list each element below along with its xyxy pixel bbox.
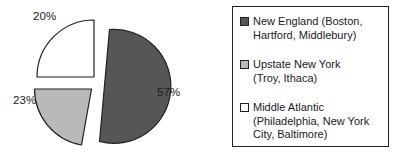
pie-label-new-england: 57% [157,86,180,99]
legend-label-line-1: Middle Atlantic [253,101,324,113]
pie-chart-area: 20% 23% 57% [0,0,215,160]
pie-label-middle-atlantic: 20% [33,10,56,23]
pie-label-upstate-new-york: 23% [13,94,36,107]
pie-chart-graphic [0,0,215,160]
legend-label-line-2: (Troy, Ithaca) [253,72,317,84]
legend-label-upstate-new-york: Upstate New York(Troy, Ithaca) [253,58,340,85]
legend-swatch-icon-upstate-new-york [240,60,249,69]
legend-label-line-1: New England (Boston, [253,15,362,27]
legend-label-new-england: New England (Boston,Hartford, Middlebury… [253,15,362,42]
legend-item-middle-atlantic[interactable]: Middle Atlantic(Philadelphia, New YorkCi… [240,101,386,142]
pie-slice-middle-atlantic[interactable] [37,20,94,77]
chart-legend: New England (Boston,Hartford, Middlebury… [232,6,389,147]
legend-label-middle-atlantic: Middle Atlantic(Philadelphia, New YorkCi… [253,101,369,142]
legend-item-upstate-new-york[interactable]: Upstate New York(Troy, Ithaca) [240,58,386,85]
legend-label-line-1: Upstate New York [253,58,340,70]
legend-label-line-3: City, Baltimore) [253,128,327,140]
legend-label-line-2: (Philadelphia, New York [253,115,369,127]
pie-slice-upstate-new-york[interactable] [35,89,92,145]
legend-label-line-2: Hartford, Middlebury) [253,29,356,41]
legend-item-new-england[interactable]: New England (Boston,Hartford, Middlebury… [240,15,386,42]
legend-swatch-icon-new-england [240,17,249,26]
legend-swatch-icon-middle-atlantic [240,103,249,112]
